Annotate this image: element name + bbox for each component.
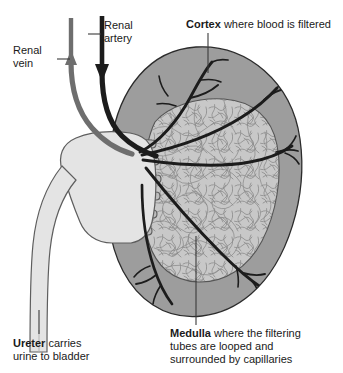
cortex-label-term: Cortex: [186, 18, 221, 30]
cortex-label: Cortex where blood is filtered: [186, 18, 331, 31]
renal-vein-label-line2: vein: [13, 57, 33, 69]
renal-artery-label: Renalartery: [104, 19, 133, 45]
artery-flow-arrow: [95, 64, 109, 82]
ureter-label-term: Ureter: [13, 337, 45, 349]
medulla-label-line2: tubes are looped and: [170, 340, 273, 352]
vein-flow-arrow: [65, 50, 77, 65]
ureter-label-line2: urine to bladder: [13, 350, 89, 362]
renal-vein-label-line1: Renal: [13, 44, 42, 56]
medulla-label-term: Medulla: [170, 327, 211, 339]
cortex-label-description: where blood is filtered: [221, 18, 331, 30]
renal-artery-label-line1: Renal: [104, 19, 133, 31]
medulla-label: Medulla where the filteringtubes are loo…: [170, 327, 301, 366]
renal-vein-label: Renalvein: [13, 44, 42, 70]
kidney-diagram-figure: Cortex where blood is filtered Renalarte…: [0, 0, 343, 373]
ureter-label: Ureter carriesurine to bladder: [13, 337, 89, 363]
medulla-label-line3: surrounded by capillaries: [170, 353, 292, 365]
renal-artery-label-line2: artery: [104, 32, 132, 44]
ureter-label-line1-rest: carries: [45, 337, 81, 349]
kidney-diagram-svg: [0, 0, 343, 373]
medulla-label-line1-rest: where the filtering: [211, 327, 301, 339]
